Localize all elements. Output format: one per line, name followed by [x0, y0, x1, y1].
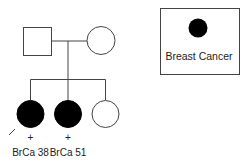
- daughter-1-marker: +: [28, 132, 34, 143]
- daughter-2-affected-circle: [55, 101, 82, 128]
- proband-arrow-icon: [9, 129, 15, 135]
- legend-box: Breast Cancer: [161, 9, 240, 75]
- daughter-1-affected-circle: [17, 101, 44, 128]
- mother-circle: [87, 27, 115, 55]
- daughter-2-label: BrCa 51: [50, 147, 87, 158]
- pedigree-diagram: + + BrCa 38 BrCa 51 Breast Cancer: [0, 0, 248, 163]
- daughter-1-label: BrCa 38: [12, 147, 49, 158]
- legend-filled-circle-icon: [189, 19, 208, 38]
- daughter-3-unaffected-circle: [92, 101, 119, 128]
- legend-label: Breast Cancer: [165, 50, 233, 62]
- father-square: [24, 28, 52, 56]
- daughter-2-marker: +: [65, 132, 71, 143]
